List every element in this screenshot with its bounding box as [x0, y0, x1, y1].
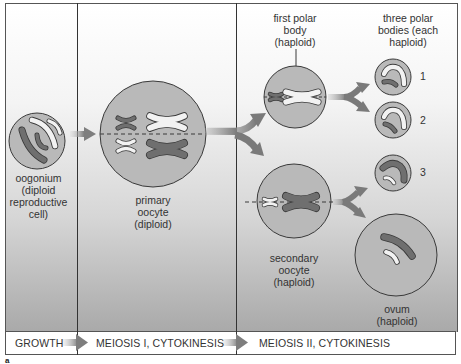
- polar-body-3: [375, 155, 411, 191]
- secondary-oocyte-label-line: secondary: [250, 252, 338, 264]
- band-arrow-2: [222, 334, 248, 351]
- arrow-growth: [70, 127, 96, 141]
- three-polar-bodies-label-line: haploid): [360, 36, 456, 48]
- primary-oocyte-cell: [100, 81, 206, 187]
- polar-body-1: [375, 59, 411, 95]
- oogonium-label-line: cell): [0, 208, 77, 220]
- oogonium-label-line: reproductive: [0, 196, 77, 208]
- polar-body-2: [375, 102, 411, 138]
- three-polar-bodies-label: three polar bodies (each haploid): [360, 12, 456, 48]
- stage-label-meiosis2: MEIOSIS II, CYTOKINESIS: [259, 337, 390, 349]
- oogonium-label-line: oogonium: [0, 172, 77, 184]
- band-arrow-1: [62, 334, 88, 351]
- primary-oocyte-label-line: oocyte: [110, 206, 196, 218]
- primary-oocyte-label-line: (diploid): [110, 218, 196, 230]
- first-polar-body-label-line: first polar: [252, 12, 338, 24]
- figure-letter: a: [5, 356, 9, 364]
- oogonium-label: oogonium (diploid reproductive cell): [0, 172, 77, 220]
- secondary-oocyte-cell: [245, 164, 335, 238]
- secondary-oocyte-label-line: (haploid): [250, 276, 338, 288]
- stage-label-meiosis1: MEIOSIS I, CYTOKINESIS: [96, 337, 224, 349]
- oogonium-cell: [9, 113, 65, 169]
- first-polar-body-label: first polar body (haploid): [252, 12, 338, 48]
- three-polar-bodies-label-line: three polar: [360, 12, 456, 24]
- ovum-cell: [355, 214, 437, 296]
- first-polar-body-label-line: (haploid): [252, 36, 338, 48]
- first-polar-body-label-line: body: [252, 24, 338, 36]
- oogonium-label-line: (diploid: [0, 184, 77, 196]
- ovum-label-line: (haploid): [362, 315, 432, 327]
- arrow-meiosis1-split: [205, 113, 266, 156]
- stage-label-growth: GROWTH: [15, 337, 63, 349]
- primary-oocyte-label-line: primary: [110, 194, 196, 206]
- secondary-oocyte-label: secondary oocyte (haploid): [250, 252, 338, 288]
- ovum-label: ovum (haploid): [362, 303, 432, 327]
- arrow-meiosis2-split: [333, 186, 368, 218]
- arrow-polar-split: [328, 82, 370, 112]
- ovum-label-line: ovum: [362, 303, 432, 315]
- polar-body-number-1: 1: [418, 70, 428, 82]
- polar-body-number-3: 3: [418, 166, 428, 178]
- primary-oocyte-label: primary oocyte (diploid): [110, 194, 196, 230]
- three-polar-bodies-label-line: bodies (each: [360, 24, 456, 36]
- secondary-oocyte-label-line: oocyte: [250, 264, 338, 276]
- first-polar-body-cell: [264, 49, 326, 128]
- polar-body-number-2: 2: [418, 114, 428, 126]
